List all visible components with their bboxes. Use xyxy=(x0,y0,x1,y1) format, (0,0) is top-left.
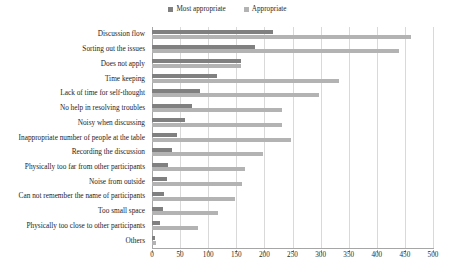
x-tick-label-150: 150 xyxy=(231,252,242,259)
bar-appropriate xyxy=(152,226,198,230)
category-label: Noise from outside xyxy=(89,178,145,185)
x-tick-label-350: 350 xyxy=(343,252,354,259)
x-tick-label-450: 450 xyxy=(400,252,411,259)
bar-appropriate xyxy=(152,138,291,142)
bar-group xyxy=(152,104,433,115)
plot-area xyxy=(152,27,433,248)
bar-group xyxy=(152,163,433,174)
x-tick-label-200: 200 xyxy=(259,252,270,259)
bar-most-appropriate xyxy=(152,74,217,78)
bar-group xyxy=(152,148,433,159)
legend-swatch-most-appropriate xyxy=(168,7,173,12)
category-label: Does not apply xyxy=(101,60,145,67)
bar-appropriate xyxy=(152,123,282,127)
bar-most-appropriate xyxy=(152,148,172,152)
category-label: Physically too close to other participan… xyxy=(26,222,145,229)
bar-appropriate xyxy=(152,108,282,112)
x-tick-label-100: 100 xyxy=(203,252,214,259)
category-label: Too small space xyxy=(98,207,145,214)
bar-group xyxy=(152,74,433,85)
bar-group xyxy=(152,30,433,41)
chart-legend: Most appropriate Appropriate xyxy=(0,6,455,13)
x-tick-label-50: 50 xyxy=(177,252,184,259)
bar-most-appropriate xyxy=(152,118,185,122)
bar-appropriate xyxy=(152,93,319,97)
bar-appropriate xyxy=(152,241,156,245)
bar-most-appropriate xyxy=(152,163,168,167)
bar-group xyxy=(152,207,433,218)
x-tick-label-500: 500 xyxy=(428,252,439,259)
x-axis-tick-labels: 050100150200250300350400450500 xyxy=(0,250,455,266)
bar-most-appropriate xyxy=(152,104,192,108)
bar-appropriate xyxy=(152,35,411,39)
category-label: Recording the discussion xyxy=(72,148,145,155)
bar-appropriate xyxy=(152,167,245,171)
bar-most-appropriate xyxy=(152,89,200,93)
category-label: Physically too far from other participan… xyxy=(25,163,145,170)
legend-item-most-appropriate: Most appropriate xyxy=(168,6,225,13)
bar-group xyxy=(152,177,433,188)
legend-item-appropriate: Appropriate xyxy=(244,6,287,13)
category-label: Can not remember the name of participant… xyxy=(19,192,145,199)
x-tick-label-400: 400 xyxy=(371,252,382,259)
chart-bars xyxy=(152,27,433,248)
bar-group xyxy=(152,59,433,70)
y-axis-category-labels: Discussion flowSorting out the issuesDoe… xyxy=(0,27,149,248)
legend-swatch-appropriate xyxy=(244,7,249,12)
bar-appropriate xyxy=(152,79,339,83)
category-label: Discussion flow xyxy=(98,30,145,37)
legend-label-most-appropriate: Most appropriate xyxy=(176,6,225,13)
bar-group xyxy=(152,118,433,129)
bar-most-appropriate xyxy=(152,30,273,34)
bar-appropriate xyxy=(152,152,263,156)
bar-appropriate xyxy=(152,182,242,186)
category-label: Lack of time for self-thought xyxy=(60,89,145,96)
gridline-500 xyxy=(433,27,434,248)
bar-most-appropriate xyxy=(152,59,241,63)
bar-appropriate xyxy=(152,197,235,201)
legend-label-appropriate: Appropriate xyxy=(252,6,287,13)
bar-appropriate xyxy=(152,49,399,53)
bar-most-appropriate xyxy=(152,45,255,49)
bar-group xyxy=(152,236,433,247)
x-tick-label-300: 300 xyxy=(315,252,326,259)
category-label: Sorting out the issues xyxy=(82,45,145,52)
bar-most-appropriate xyxy=(152,177,167,181)
x-tick-label-250: 250 xyxy=(287,252,298,259)
bar-group xyxy=(152,89,433,100)
bar-appropriate xyxy=(152,64,241,68)
x-tick-label-0: 0 xyxy=(150,252,154,259)
x-axis-line xyxy=(152,248,434,249)
category-label: Noisy when discussing xyxy=(78,119,145,126)
bar-most-appropriate xyxy=(152,207,163,211)
bar-most-appropriate xyxy=(152,192,164,196)
category-label: No help in resolving troubles xyxy=(60,104,145,111)
bar-group xyxy=(152,133,433,144)
bar-group xyxy=(152,192,433,203)
category-label: Others xyxy=(126,237,145,244)
bar-group xyxy=(152,45,433,56)
bar-most-appropriate xyxy=(152,221,160,225)
category-label: Time keeping xyxy=(105,75,145,82)
bar-most-appropriate xyxy=(152,133,177,137)
category-label: Inappropriate number of people at the ta… xyxy=(19,134,145,141)
bar-group xyxy=(152,221,433,232)
bar-appropriate xyxy=(152,211,218,215)
bar-most-appropriate xyxy=(152,236,155,240)
chart-container: Most appropriate Appropriate Discussion … xyxy=(0,0,455,274)
